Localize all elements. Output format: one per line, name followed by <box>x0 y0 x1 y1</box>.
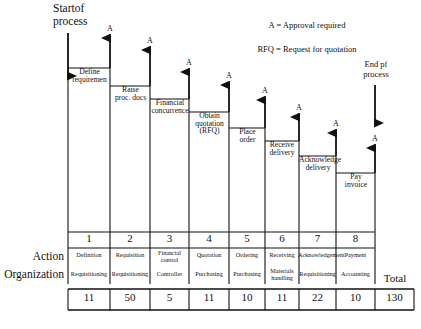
days-5: 10 <box>229 292 265 304</box>
approval-mark-9: A <box>368 134 382 143</box>
approval-mark-6: A <box>258 86 272 95</box>
step-label-6: Receive delivery <box>265 141 299 156</box>
days-3: 5 <box>150 292 189 304</box>
step-label-2: Raise proc. docs <box>111 86 150 101</box>
action-3: Financial control <box>150 250 189 263</box>
row-label-organization: Organization <box>0 268 64 280</box>
days-1: 11 <box>68 292 110 304</box>
approval-mark-8: A <box>329 119 343 128</box>
organization-6: Materials handling <box>265 268 299 281</box>
start-process-label: Startof process <box>53 2 133 28</box>
action-6: Receiving <box>265 252 299 259</box>
step-number-5: 5 <box>229 233 265 245</box>
organization-1: Requisitioning <box>67 271 111 278</box>
step-label-4: Obtain quotation (RFQ) <box>190 112 229 135</box>
days-6: 11 <box>265 292 299 304</box>
step-number-1: 1 <box>68 233 110 245</box>
approval-mark-5: A <box>222 71 236 80</box>
days-8: 10 <box>336 292 375 304</box>
approval-mark-3: A <box>143 36 157 45</box>
action-5: Ordering <box>229 252 265 259</box>
row-label-total: Total <box>376 272 414 284</box>
step-number-8: 8 <box>336 233 375 245</box>
step-label-5: Place order <box>230 128 265 143</box>
legend-rfq: RFQ = Request for quotation <box>252 44 362 54</box>
step-label-3: Financial concurrence <box>150 99 190 114</box>
action-8: Payment <box>336 252 375 259</box>
legend-approval: A = Approval required <box>258 20 356 30</box>
organization-7: Requisitioning <box>298 271 337 278</box>
days-total: 130 <box>375 292 414 304</box>
organization-4: Purchasing <box>189 271 229 278</box>
days-7: 22 <box>299 292 336 304</box>
days-4: 11 <box>189 292 229 304</box>
row-label-action: Action <box>0 250 64 262</box>
organization-8: Accounting <box>336 271 375 278</box>
action-2: Requisition <box>110 252 150 259</box>
step-number-6: 6 <box>265 233 299 245</box>
step-label-1: Define requiremen <box>69 68 110 83</box>
step-label-7: Acknowledge delivery <box>299 156 337 171</box>
approval-mark-7: A <box>292 103 306 112</box>
approval-mark-4: A <box>182 58 196 67</box>
process-staircase-diagram: Startof process End pf process A = Appro… <box>0 0 421 329</box>
step-number-4: 4 <box>189 233 229 245</box>
action-7: Acknowledgement <box>298 252 337 259</box>
step-label-8: Pay invoice <box>337 173 375 188</box>
action-4: Quotation <box>189 252 229 259</box>
organization-2: Requisitioning <box>109 271 151 278</box>
organization-3: Controller <box>150 271 189 278</box>
organization-5: Purchasing <box>229 271 265 278</box>
action-1: Definition <box>68 252 110 259</box>
approval-mark-2: A <box>103 24 117 33</box>
step-number-2: 2 <box>110 233 150 245</box>
step-number-3: 3 <box>150 233 189 245</box>
end-process-label: End pf process <box>352 60 400 79</box>
days-2: 50 <box>110 292 150 304</box>
step-number-7: 7 <box>299 233 336 245</box>
